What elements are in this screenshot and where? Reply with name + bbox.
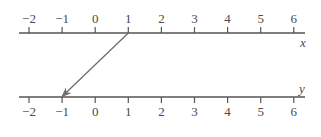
y-tick-label: −1: [55, 104, 69, 119]
x-tick-label: 2: [158, 11, 165, 26]
x-axis-ticks: [29, 27, 294, 33]
y-tick-label: 3: [191, 104, 198, 119]
x-tick-label: −2: [22, 11, 36, 26]
x-tick-label: −1: [55, 11, 69, 26]
x-number-line: −2−10123456 x: [19, 11, 306, 50]
y-tick-label: −2: [22, 104, 36, 119]
y-tick-label: 6: [291, 104, 298, 119]
mapping-diagram: −2−10123456 x −2−10123456 y: [0, 0, 321, 137]
x-tick-label: 4: [224, 11, 231, 26]
y-tick-label: 1: [125, 104, 132, 119]
x-tick-label: 3: [191, 11, 198, 26]
mapping-arrow: [62, 33, 128, 97]
x-tick-label: 6: [291, 11, 298, 26]
y-number-line: −2−10123456 y: [19, 81, 305, 119]
x-axis-name: x: [299, 35, 306, 50]
x-tick-label: 0: [92, 11, 99, 26]
x-axis-tick-labels: −2−10123456: [22, 11, 297, 26]
x-tick-label: 5: [257, 11, 264, 26]
y-tick-label: 4: [224, 104, 231, 119]
y-axis-name: y: [297, 81, 305, 96]
y-axis-tick-labels: −2−10123456: [22, 104, 297, 119]
mapping-arrows: [62, 33, 128, 97]
y-tick-label: 5: [257, 104, 264, 119]
x-tick-label: 1: [125, 11, 132, 26]
y-tick-label: 0: [92, 104, 99, 119]
y-axis-ticks: [29, 97, 294, 103]
y-tick-label: 2: [158, 104, 165, 119]
